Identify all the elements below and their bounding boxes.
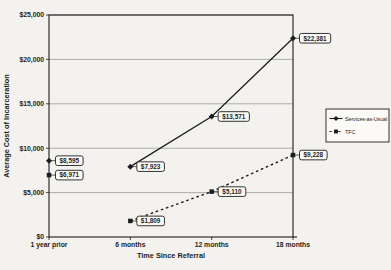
- data-label: $8,595: [50, 156, 83, 166]
- data-label: $22,381: [294, 33, 331, 43]
- chart-text: $7,923: [141, 163, 161, 171]
- chart-text: TFC: [345, 129, 355, 135]
- series-tfc: [47, 153, 296, 223]
- chart-text: $5,110: [222, 188, 242, 196]
- chart-text: 18 months: [276, 241, 310, 248]
- chart-text: $9,228: [304, 151, 324, 159]
- chart-svg: $0$5,000$10,000$15,000$20,000$25,0001 ye…: [0, 0, 391, 270]
- chart-text: $20,000: [19, 56, 44, 64]
- data-label: $9,228: [294, 150, 327, 160]
- chart-text: $13,571: [222, 113, 246, 121]
- chart-text: $6,971: [60, 171, 80, 179]
- chart-text: $10,000: [19, 145, 44, 153]
- series-services-as-usual: [46, 35, 296, 169]
- chart-text: $22,381: [304, 35, 328, 43]
- series-line: [130, 38, 293, 166]
- chart-text: 6 months: [115, 241, 145, 248]
- data-label: $13,571: [213, 112, 250, 122]
- cost-of-incarceration-figure: $0$5,000$10,000$15,000$20,000$25,0001 ye…: [0, 0, 391, 270]
- legend-box: [326, 109, 389, 142]
- chart-text: Average Cost of Incarceration: [2, 74, 11, 178]
- chart-text: 12 months: [195, 241, 229, 248]
- plot-border: [49, 15, 293, 237]
- chart-text: $1,809: [141, 217, 161, 225]
- square-marker: [334, 130, 338, 134]
- chart-text: $5,000: [23, 189, 44, 197]
- chart-text: 1 year prior: [30, 241, 67, 249]
- chart-text: $8,595: [60, 157, 80, 165]
- chart-text: Services-as-Usual: [345, 116, 387, 122]
- chart-text: $25,000: [19, 11, 44, 19]
- data-label: $1,809: [131, 216, 164, 226]
- chart-text: Time Since Referral: [137, 251, 205, 260]
- chart-text: $15,000: [19, 100, 44, 108]
- data-label: $6,971: [50, 170, 83, 180]
